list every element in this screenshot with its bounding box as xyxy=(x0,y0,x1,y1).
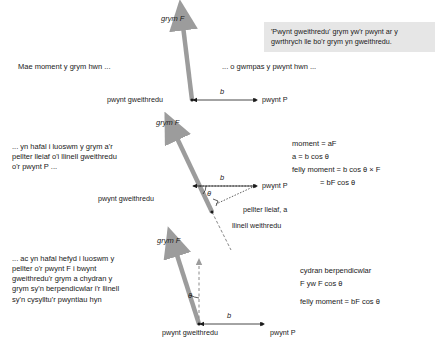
panel2-point-p-label: pwynt P xyxy=(262,182,288,191)
panel3-distance-label: b xyxy=(227,311,231,320)
panel1-force-arrow xyxy=(183,26,192,100)
panel1-point-p-label: pwynt P xyxy=(262,96,288,105)
panel2-point-p-dot xyxy=(253,184,256,187)
panel3-force-label: grym F xyxy=(157,236,180,245)
panel2-force-arrow xyxy=(176,136,212,212)
panel2-equation-2: felly moment = b cos θ × F xyxy=(292,165,380,174)
panel3-equation-2: felly moment = bF cos θ xyxy=(300,297,380,306)
panel1-action-point-dot xyxy=(190,98,193,101)
panel1-distance-label: b xyxy=(220,87,224,96)
panel2-equation-1: a = b cos θ xyxy=(292,152,329,161)
panel3-equation-1: F yw F cos θ xyxy=(300,279,343,288)
panel2-distance-label: b xyxy=(220,173,224,182)
panel3-lead-text: ... ac yn hafal hefyd i luoswm y pellter… xyxy=(12,254,119,305)
panel1-action-point-label: pwynt gweithredu xyxy=(107,96,163,105)
panel2-angle-label: θ xyxy=(207,189,211,198)
panel3-point-p-dot xyxy=(260,322,263,325)
panel3-point-p-label: pwynt P xyxy=(270,329,296,338)
panel2-action-point-dot xyxy=(210,210,213,213)
panel3-force-arrow xyxy=(176,252,199,324)
panel2-lead-text: ... yn hafal i luoswm y grym a'r pellter… xyxy=(12,142,117,172)
panel3-angle-label: θ xyxy=(188,291,192,300)
panel2-line-of-action xyxy=(212,212,231,250)
panel2-equation-3: = bF cos θ xyxy=(320,178,355,187)
panel3-equation-0: cydran berpendicwlar xyxy=(300,266,371,275)
panel2-line-of-action-label: llinell weithredu xyxy=(232,222,281,231)
panel3-action-point-label: pwynt gweithredu xyxy=(162,329,218,338)
definition-note: 'Pwynt gweithredu' grym yw'r pwynt ar y … xyxy=(264,22,435,52)
panel1-right-text: ... o gwmpas y pwynt hwn ... xyxy=(222,62,316,72)
panel2-action-point-label: pwynt gweithredu xyxy=(98,195,154,204)
panel1-point-p-dot xyxy=(253,98,256,101)
panel1-force-label: grym F xyxy=(161,14,184,23)
panel2-equation-0: moment = aF xyxy=(292,139,336,148)
panel2-perp-distance-label: pellter lleiaf, a xyxy=(243,206,287,215)
panel3-action-point-dot xyxy=(197,322,200,325)
panel1-lead-text: Mae moment y grym hwn ... xyxy=(18,62,111,72)
panel2-force-label: grym F xyxy=(156,118,179,127)
